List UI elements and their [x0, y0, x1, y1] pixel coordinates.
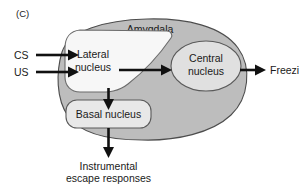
figure-panel: (C) Amygdala Lateral nucleus Central nuc…	[0, 0, 299, 186]
cs-input-label: CS	[14, 49, 29, 61]
central-nucleus-label-line2: nucleus	[188, 65, 224, 77]
lateral-nucleus-label-line1: Lateral	[77, 48, 109, 60]
central-nucleus-label-line1: Central	[189, 52, 223, 64]
us-input-label: US	[14, 66, 29, 78]
freezing-output-label: Freezing	[270, 64, 299, 76]
panel-label: (C)	[16, 8, 29, 19]
escape-output-label-line2: escape responses	[66, 172, 151, 184]
escape-output-label-line1: Instrumental	[80, 160, 138, 172]
lateral-nucleus-label-line2: nucleus	[75, 61, 111, 73]
amygdala-fear-circuit-diagram: (C) Amygdala Lateral nucleus Central nuc…	[0, 0, 299, 186]
